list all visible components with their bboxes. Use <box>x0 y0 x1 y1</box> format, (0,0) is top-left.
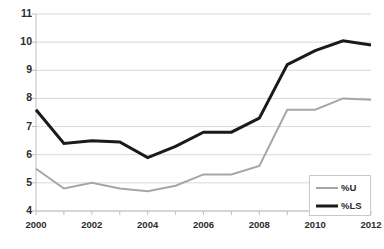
legend-swatch-pct-ls <box>316 201 338 211</box>
x-tick-label: 2002 <box>72 219 112 230</box>
x-tick-label: 2008 <box>239 219 279 230</box>
legend-label-pct-ls: %LS <box>341 201 362 211</box>
legend-label-pct-u: %U <box>341 183 356 193</box>
x-tick-label: 2012 <box>351 219 384 230</box>
x-tick-label: 2010 <box>295 219 335 230</box>
legend-item-pct-u: %U <box>310 181 372 195</box>
x-tick-label: 2000 <box>16 219 56 230</box>
line-chart: 4567891011 2000200220042006200820102012 … <box>0 0 384 249</box>
legend-item-pct-ls: %LS <box>310 199 372 213</box>
legend-swatch-pct-u <box>316 183 338 193</box>
x-tick-label: 2004 <box>128 219 168 230</box>
x-tick-label: 2006 <box>184 219 224 230</box>
chart-legend: %U %LS <box>309 175 371 216</box>
